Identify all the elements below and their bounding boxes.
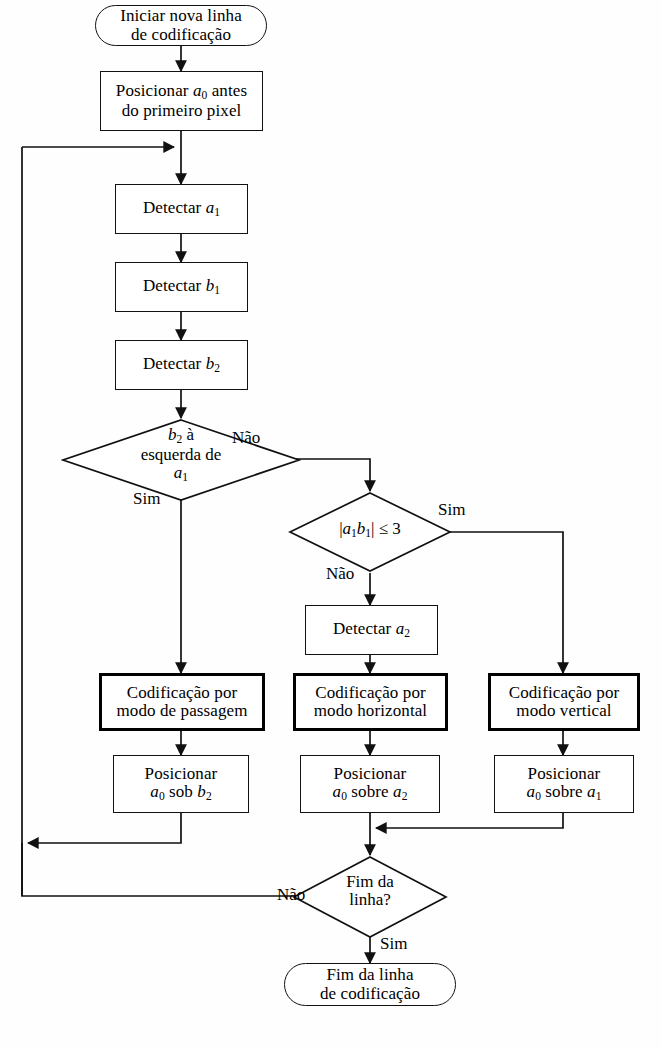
- position-under-b2-mid: sob: [165, 782, 198, 801]
- mode-vertical-line2: modo vertical: [516, 701, 611, 720]
- node-decision-b2-left[interactable]: b2 à esquerda de a1: [61, 418, 301, 502]
- node-detect-b1[interactable]: Detectar b1: [115, 262, 248, 312]
- position-over-a1-s2: 1: [596, 790, 602, 803]
- position-under-b2-v2: b: [197, 782, 206, 801]
- edge-label-decision1-yes: Sim: [133, 489, 160, 509]
- detect-b1-pre: Detectar: [143, 276, 206, 295]
- decision3-line2: linha?: [349, 890, 391, 909]
- end-line2: de codificação: [320, 984, 420, 1003]
- position-over-a1-v2: a: [587, 782, 596, 801]
- mode-horizontal-line1: Codificação por: [315, 683, 426, 702]
- mode-vertical-line1: Codificação por: [509, 683, 620, 702]
- detect-a2-var: a: [396, 619, 405, 638]
- node-position-over-a2[interactable]: Posicionar a0 sobre a2: [300, 755, 440, 813]
- detect-b2-sub: 2: [214, 362, 220, 375]
- decision3-line1: Fim da: [346, 872, 394, 891]
- start-line1: Iniciar nova linha: [120, 6, 242, 25]
- decision2-v1: a: [343, 519, 352, 538]
- node-position-over-a1[interactable]: Posicionar a0 sobre a1: [494, 755, 634, 813]
- mode-pass-line1: Codificação por: [127, 683, 238, 702]
- node-end[interactable]: Fim da linha de codificação: [284, 963, 456, 1006]
- position-first-line2: do primeiro pixel: [122, 101, 242, 120]
- node-position-under-b2[interactable]: Posicionar a0 sob b2: [113, 755, 249, 813]
- position-over-a1-line1: Posicionar: [528, 764, 601, 783]
- position-under-b2-line1: Posicionar: [145, 764, 218, 783]
- detect-b1-sub: 1: [214, 284, 220, 297]
- node-detect-a2[interactable]: Detectar a2: [305, 605, 438, 655]
- detect-a2-sub: 2: [404, 627, 410, 640]
- detect-a2-pre: Detectar: [333, 619, 396, 638]
- decision1-l1-post: à: [182, 425, 194, 444]
- position-first-var: a: [193, 81, 202, 100]
- node-mode-horizontal[interactable]: Codificação por modo horizontal: [293, 673, 448, 731]
- position-first-post: antes: [207, 81, 247, 100]
- position-over-a2-v1: a: [333, 782, 342, 801]
- position-under-b2-v1: a: [150, 782, 159, 801]
- mode-horizontal-line2: modo horizontal: [314, 701, 427, 720]
- flowchart-canvas: Iniciar nova linha de codificação Posici…: [0, 0, 661, 1049]
- mode-pass-line2: modo de passagem: [117, 701, 248, 720]
- detect-b1-var: b: [206, 276, 215, 295]
- position-over-a2-v2: a: [393, 782, 402, 801]
- detect-a1-sub: 1: [214, 206, 220, 219]
- detect-b2-pre: Detectar: [143, 354, 206, 373]
- edge-label-decision2-yes: Sim: [438, 500, 465, 520]
- end-line1: Fim da linha: [326, 965, 413, 984]
- edge-label-decision2-no: Não: [326, 564, 354, 584]
- position-over-a2-mid: sobre: [347, 782, 393, 801]
- position-over-a1-mid: sobre: [541, 782, 587, 801]
- position-over-a2-s2: 2: [402, 790, 408, 803]
- position-first-pre: Posicionar: [116, 81, 193, 100]
- node-mode-pass[interactable]: Codificação por modo de passagem: [99, 673, 265, 731]
- node-detect-b2[interactable]: Detectar b2: [115, 340, 248, 390]
- edge-under-b2-to-loop: [28, 813, 181, 843]
- position-over-a2-line1: Posicionar: [334, 764, 407, 783]
- decision1-l3-sub: 1: [182, 470, 188, 483]
- edge-label-decision3-yes: Sim: [380, 934, 407, 954]
- decision1-l2: esquerda de: [141, 445, 222, 464]
- edge-over-a1-merge: [376, 813, 563, 828]
- detect-b2-var: b: [206, 354, 215, 373]
- node-detect-a1[interactable]: Detectar a1: [115, 184, 248, 234]
- node-start[interactable]: Iniciar nova linha de codificação: [95, 5, 267, 46]
- start-line2: de codificação: [131, 25, 231, 44]
- position-over-a1-v1: a: [527, 782, 536, 801]
- node-decision-end-of-line[interactable]: Fim da linha?: [292, 855, 448, 939]
- detect-a1-var: a: [206, 198, 215, 217]
- node-mode-vertical[interactable]: Codificação por modo vertical: [488, 673, 640, 731]
- position-under-b2-s2: 2: [206, 790, 212, 803]
- detect-a1-pre: Detectar: [143, 198, 206, 217]
- node-decision-a1b1[interactable]: |a1b1| ≤ 3: [288, 491, 452, 573]
- node-position-a0-first[interactable]: Posicionar a0 antes do primeiro pixel: [100, 71, 263, 131]
- decision2-rel: ≤ 3: [375, 519, 401, 538]
